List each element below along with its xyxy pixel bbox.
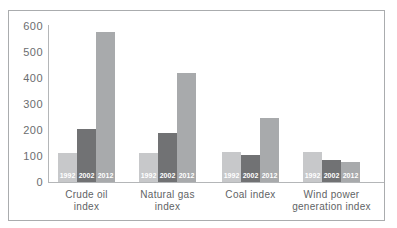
bar-year-label: 1992 [305, 172, 321, 182]
bar-2002-wind-power-generation-index: 2002 [322, 160, 341, 182]
category-label-line: index [113, 201, 223, 213]
bar-2002-natural-gas-index: 2002 [158, 133, 177, 182]
chart-frame: 6005004003002001000 19922002201219922002… [8, 10, 385, 221]
y-tick-label: 200 [13, 125, 43, 136]
bar-2002-crude-oil-index: 2002 [77, 129, 96, 182]
bar-year-label: 2002 [79, 172, 95, 182]
bar-2012-natural-gas-index: 2012 [177, 73, 196, 182]
bar-year-label: 2002 [243, 172, 259, 182]
bar-year-label: 1992 [141, 172, 157, 182]
bar-1992-crude-oil-index: 1992 [58, 153, 77, 182]
y-tick-label: 600 [13, 21, 43, 32]
bar-1992-wind-power-generation-index: 1992 [303, 152, 322, 182]
bar-year-label: 2012 [262, 172, 278, 182]
bar-year-label: 1992 [60, 172, 76, 182]
bar-year-label: 2002 [160, 172, 176, 182]
bar-year-label: 2012 [98, 172, 114, 182]
bar-year-label: 2012 [179, 172, 195, 182]
bar-2012-coal-index: 2012 [260, 118, 279, 182]
category-label-line: Wind power [277, 189, 387, 201]
bar-year-label: 2002 [324, 172, 340, 182]
y-tick-label: 100 [13, 151, 43, 162]
bar-year-label: 2012 [343, 172, 359, 182]
bar-2002-coal-index: 2002 [241, 155, 260, 182]
bar-2012-crude-oil-index: 2012 [96, 32, 115, 182]
bar-year-label: 1992 [224, 172, 240, 182]
y-tick-label: 500 [13, 47, 43, 58]
bar-1992-natural-gas-index: 1992 [139, 153, 158, 182]
category-label-wind-power-generation-index: Wind powergeneration index [277, 189, 387, 213]
bar-2012-wind-power-generation-index: 2012 [341, 162, 360, 182]
y-tick-label: 0 [13, 177, 43, 188]
x-axis-line [48, 182, 384, 183]
bar-1992-coal-index: 1992 [222, 152, 241, 182]
y-axis-line [48, 25, 49, 182]
y-tick-label: 300 [13, 99, 43, 110]
category-label-line: generation index [277, 201, 387, 213]
y-tick-label: 400 [13, 73, 43, 84]
